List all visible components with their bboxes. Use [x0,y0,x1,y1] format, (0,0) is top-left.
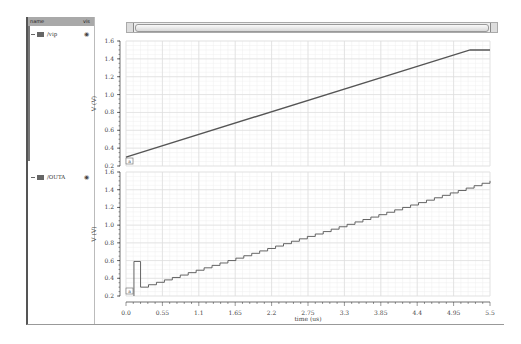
y-tick-label: 1.0 [104,221,114,228]
y-tick-label: 0.4 [104,274,114,281]
y-tick-label: 1.6 [104,37,114,44]
x-tick-label: 5.5 [485,309,495,316]
y-axis-1: 1.61.41.21.00.80.60.40.2V (V)a [90,37,133,169]
marker-label: a [128,159,131,164]
y-tick-label: 1.2 [104,203,114,210]
y-tick-label: 0.8 [104,108,114,115]
x-tick-label: 4.95 [447,309,461,316]
y-axis-label: V (V) [90,226,97,242]
y-tick-label: 1.4 [104,55,114,62]
y-tick-label: 1.0 [104,91,114,98]
x-tick-label: 0.55 [156,309,170,316]
marker-label: a [128,289,131,294]
y-tick-label: 0.6 [104,126,114,133]
x-tick-label: 1.1 [194,309,204,316]
y-tick-label: 0.8 [104,239,114,246]
y-tick-label: 1.4 [104,186,114,193]
y-tick-label: 0.6 [104,257,114,264]
y-tick-label: 0.4 [104,144,114,151]
y-axis-label: V (V) [90,96,97,112]
x-tick-label: 2.2 [267,309,277,316]
x-tick-label: 3.3 [340,309,350,316]
x-axis-label: time (us) [294,315,321,322]
x-tick-label: 3.85 [374,309,388,316]
y-tick-label: 1.6 [104,168,114,175]
x-axis: 0.00.551.11.652.22.753.33.854.44.955.5ti… [121,302,495,322]
x-tick-label: 4.4 [412,309,422,316]
x-tick-label: 0.0 [121,309,131,316]
plot-panel-1[interactable] [126,41,490,166]
y-axis-2: 1.61.41.21.00.80.60.40.2V (V)a [90,168,133,299]
waveform-plots: 1.61.41.21.00.80.60.40.2V (V)a1.61.41.21… [0,0,521,344]
y-tick-label: 0.2 [104,292,114,299]
y-tick-label: 1.2 [104,73,114,80]
x-tick-label: 1.65 [229,309,243,316]
